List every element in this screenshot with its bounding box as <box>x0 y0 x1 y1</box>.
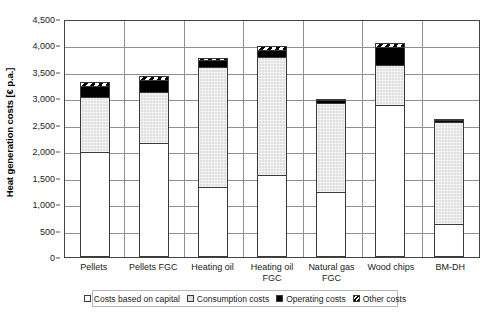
stacked-bar[interactable] <box>198 59 228 257</box>
y-axis-tick-label: 1,500 <box>15 174 55 184</box>
bar-slot <box>65 21 124 257</box>
x-axis-tick-label: Wood chips <box>361 260 420 288</box>
y-axis-tick-mark <box>56 178 60 179</box>
legend-swatch-capital-icon <box>84 295 91 302</box>
bar-segment-capital <box>198 187 228 257</box>
y-axis-title-text: Heat generation costs [€ p.a.] <box>5 68 16 198</box>
stacked-bar[interactable] <box>375 44 405 257</box>
y-axis-tick-label: 3,000 <box>15 94 55 104</box>
x-axis-label-line: Heating oil <box>242 262 301 273</box>
x-axis-tick-label: Pellets <box>64 260 123 288</box>
bar-segment-consumption <box>316 103 346 193</box>
stacked-bar[interactable] <box>257 47 287 257</box>
y-axis-title: Heat generation costs [€ p.a.] <box>0 0 20 265</box>
bar-slot <box>361 21 420 257</box>
bar-segment-capital <box>80 152 110 257</box>
stacked-bar[interactable] <box>434 120 464 257</box>
bar-slot <box>124 21 183 257</box>
bar-segment-consumption <box>198 67 228 188</box>
bar-segment-capital <box>434 224 464 257</box>
bar-segment-consumption <box>257 57 287 175</box>
x-axis-tick-label: Heating oilFGC <box>242 260 301 288</box>
y-axis-tick-label: 0 <box>15 253 55 263</box>
y-axis-tick-label: 500 <box>15 227 55 237</box>
bar-segment-capital <box>316 192 346 257</box>
bar-segment-operating <box>375 47 405 66</box>
y-axis-tick-mark <box>56 99 60 100</box>
x-axis-tick-label: Heating oil <box>183 260 242 288</box>
x-axis-tick-labels: PelletsPellets FGCHeating oilHeating oil… <box>64 260 480 288</box>
legend-item-label: Operating costs <box>286 294 346 304</box>
y-axis-tick-label: 4,000 <box>15 41 55 51</box>
legend-item[interactable]: Consumption costs <box>187 294 269 304</box>
legend-item-label: Costs based on capital <box>94 294 180 304</box>
y-axis-tick-mark <box>56 46 60 47</box>
bar-slot <box>420 21 479 257</box>
x-axis-label-line: FGC <box>242 273 301 284</box>
y-axis-tick-mark <box>56 205 60 206</box>
plot-area <box>64 20 480 258</box>
legend-item[interactable]: Operating costs <box>276 294 346 304</box>
bar-slot <box>242 21 301 257</box>
chart-root: Heat generation costs [€ p.a.] 4,5004,00… <box>0 0 490 315</box>
bar-segment-consumption <box>80 97 110 154</box>
x-axis-tick-label: Natural gasFGC <box>302 260 361 288</box>
stacked-bar[interactable] <box>80 83 110 257</box>
bar-segment-capital <box>375 105 405 257</box>
chart-legend: Costs based on capitalConsumption costsO… <box>92 290 398 307</box>
stacked-bar[interactable] <box>139 77 169 257</box>
legend-item[interactable]: Costs based on capital <box>84 294 180 304</box>
bar-segment-capital <box>257 175 287 258</box>
y-axis-tick-mark <box>56 125 60 126</box>
legend-item-label: Consumption costs <box>197 294 269 304</box>
bar-segment-consumption <box>139 92 169 144</box>
bar-segment-capital <box>139 143 169 257</box>
y-axis-tick-label: 3,500 <box>15 68 55 78</box>
y-axis-tick-mark <box>56 152 60 153</box>
stacked-bar[interactable] <box>316 100 346 257</box>
y-axis-tick-mark <box>56 231 60 232</box>
y-axis-tick-label: 2,500 <box>15 121 55 131</box>
y-axis-tick-mark <box>56 20 60 21</box>
bar-segment-consumption <box>375 65 405 106</box>
y-axis-tick-labels: 4,5004,0003,5003,0002,5002,0001,5001,000… <box>20 14 60 260</box>
x-axis-label-line: Natural gas <box>302 262 361 273</box>
x-axis-label-line: FGC <box>302 273 361 284</box>
y-axis-tick-label: 4,500 <box>15 15 55 25</box>
y-axis-tick-mark <box>56 258 60 259</box>
bar-segment-consumption <box>434 122 464 225</box>
legend-item-label: Other costs <box>363 294 406 304</box>
legend-swatch-other-icon <box>353 295 360 302</box>
x-axis-tick-label: BM-DH <box>421 260 480 288</box>
bar-series-group <box>65 21 479 257</box>
x-axis-tick-label: Pellets FGC <box>123 260 182 288</box>
y-axis-tick-label: 2,000 <box>15 147 55 157</box>
legend-item[interactable]: Other costs <box>353 294 406 304</box>
legend-swatch-consumption-icon <box>187 295 194 302</box>
bar-slot <box>183 21 242 257</box>
bar-slot <box>302 21 361 257</box>
legend-swatch-operating-icon <box>276 295 283 302</box>
y-axis-tick-mark <box>56 72 60 73</box>
y-axis-tick-label: 1,000 <box>15 200 55 210</box>
